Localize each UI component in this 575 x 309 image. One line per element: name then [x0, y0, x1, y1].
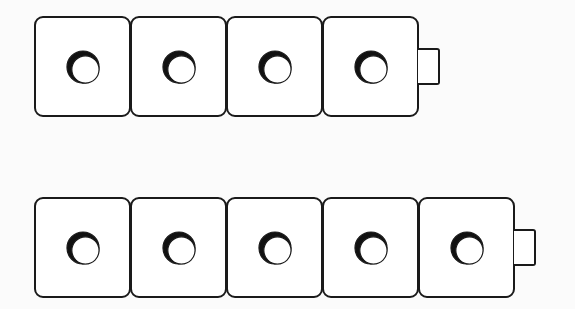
- cube-hole-icon: [353, 230, 388, 265]
- cube-hole-icon: [65, 230, 100, 265]
- cube: [34, 197, 131, 298]
- cube: [34, 16, 131, 117]
- cube-hole-icon: [449, 230, 484, 265]
- cube-hole-icon: [161, 49, 196, 84]
- bottom-cube-train: [34, 197, 536, 298]
- cube-hole-icon: [161, 230, 196, 265]
- cube: [130, 16, 227, 117]
- top-cube-train: [34, 16, 440, 117]
- cube-connector-knob: [418, 48, 440, 85]
- cube-hole-icon: [65, 49, 100, 84]
- cube-hole-icon: [353, 49, 388, 84]
- linking-cubes-diagram: [0, 0, 575, 309]
- cube-connector-knob: [514, 229, 536, 266]
- cube: [226, 197, 323, 298]
- cube: [226, 16, 323, 117]
- cube: [130, 197, 227, 298]
- cube: [322, 197, 419, 298]
- cube-hole-icon: [257, 49, 292, 84]
- cube: [418, 197, 515, 298]
- cube-hole-icon: [257, 230, 292, 265]
- cube: [322, 16, 419, 117]
